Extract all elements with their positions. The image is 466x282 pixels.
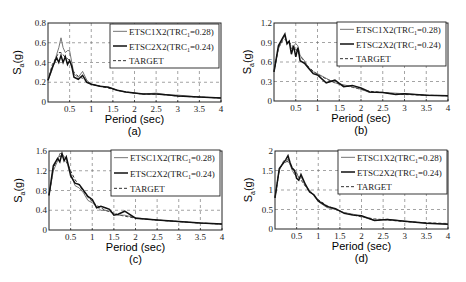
legend-entry: TARGET	[356, 54, 391, 64]
x-axis-label: Period (sec)	[331, 112, 390, 124]
y-tick-label: 1.2	[36, 166, 47, 176]
x-tick-label: 0.5	[64, 104, 76, 114]
x-tick-label: 3	[403, 231, 408, 241]
y-tick-label: 1	[269, 185, 274, 195]
chart-panel-c: 0.511.522.533.5400.40.81.21.6Period (sec…	[0, 141, 233, 282]
legend: ETSC1X2(TRC1=0.28)ETSC2X2(TRC1=0.24)TARG…	[110, 24, 219, 68]
x-tick-label: 4	[219, 104, 224, 114]
x-axis-label: Period (sec)	[105, 113, 164, 125]
x-tick-label: 0.5	[290, 103, 302, 113]
legend-entry: ETSC2X2(TRC1=0.24)	[356, 40, 441, 51]
chart-caption: (c)	[129, 253, 142, 265]
y-tick-label: 0.6	[261, 57, 273, 67]
legend-entry: ETSC1X2(TRC1=0.28)	[130, 153, 215, 164]
y-tick-label: 0	[269, 224, 274, 234]
x-tick-label: 1	[90, 232, 95, 242]
legend: ETSC1X2(TRC1=0.28)ETSC2X2(TRC1=0.24)TARG…	[111, 150, 220, 196]
y-tick-label: 0.3	[261, 77, 273, 87]
legend: ETSC1X2(TRC1=0.28)ETSC2X2(TRC1=0.24)TARG…	[338, 150, 447, 194]
chart-b: 0.511.522.533.5400.30.60.91.2Period (sec…	[233, 0, 466, 141]
x-tick-label: 1	[89, 104, 94, 114]
legend: ETSC1X2(TRC1=0.28)ETSC2X2(TRC1=0.24)TARG…	[337, 22, 446, 66]
x-tick-label: 1	[316, 231, 321, 241]
x-tick-label: 0.5	[65, 232, 77, 242]
y-tick-label: 0.8	[36, 186, 48, 196]
y-axis-label: Sa(g)	[241, 50, 255, 75]
y-tick-label: 0.8	[35, 18, 47, 28]
legend-entry: ETSC1X2(TRC1=0.28)	[357, 153, 442, 164]
chart-caption: (a)	[128, 125, 141, 137]
x-tick-label: 3.5	[421, 231, 433, 241]
y-tick-label: 2	[269, 146, 274, 156]
y-tick-label: 1.2	[261, 18, 272, 28]
y-tick-label: 0.4	[36, 205, 48, 215]
legend-entry: ETSC2X2(TRC1=0.24)	[130, 169, 215, 180]
x-tick-label: 4	[220, 232, 225, 242]
y-tick-label: 0.6	[35, 38, 47, 48]
chart-a: 0.511.522.533.5400.20.40.60.8Period (sec…	[0, 0, 233, 141]
chart-caption: (b)	[354, 124, 367, 136]
legend-entry: ETSC2X2(TRC1=0.24)	[129, 42, 214, 53]
x-tick-label: 3	[176, 104, 181, 114]
y-axis-label: Sa(g)	[12, 178, 26, 203]
legend-entry: TARGET	[357, 182, 392, 192]
y-tick-label: 0	[42, 97, 47, 107]
y-tick-label: 1.5	[262, 166, 274, 176]
x-axis-label: Period (sec)	[332, 240, 391, 252]
x-tick-label: 4	[446, 103, 451, 113]
chart-c: 0.511.522.533.5400.40.81.21.6Period (sec…	[0, 141, 233, 282]
chart-d: 0.511.522.533.5400.511.52Period (sec)(d)…	[233, 141, 466, 282]
y-tick-label: 0	[43, 225, 48, 235]
x-tick-label: 3.5	[421, 103, 433, 113]
x-tick-label: 3	[177, 232, 182, 242]
x-tick-label: 3.5	[194, 104, 206, 114]
x-tick-label: 1	[315, 103, 320, 113]
legend-entry: TARGET	[129, 56, 164, 66]
x-tick-label: 3.5	[195, 232, 207, 242]
y-tick-label: 0.2	[35, 77, 46, 87]
x-tick-label: 4	[446, 231, 451, 241]
legend-entry: ETSC1X2(TRC1=0.28)	[356, 25, 441, 36]
y-tick-label: 1.6	[36, 146, 48, 156]
y-axis-label: Sa(g)	[242, 178, 256, 203]
chart-panel-a: 0.511.522.533.5400.20.40.60.8Period (sec…	[0, 0, 233, 141]
y-tick-label: 0.9	[261, 38, 273, 48]
y-tick-label: 0.4	[35, 58, 47, 68]
x-axis-label: Period (sec)	[106, 241, 165, 253]
y-tick-label: 0.5	[262, 205, 274, 215]
legend-entry: TARGET	[130, 184, 165, 194]
legend-entry: ETSC2X2(TRC1=0.24)	[357, 168, 442, 179]
x-tick-label: 3	[402, 103, 407, 113]
chart-caption: (d)	[355, 252, 368, 264]
y-tick-label: 0	[268, 96, 273, 106]
y-axis-label: Sa(g)	[11, 50, 25, 75]
chart-panel-d: 0.511.522.533.5400.511.52Period (sec)(d)…	[233, 141, 466, 282]
chart-panel-b: 0.511.522.533.5400.30.60.91.2Period (sec…	[233, 0, 466, 141]
x-tick-label: 0.5	[291, 231, 303, 241]
legend-entry: ETSC1X2(TRC1=0.28)	[129, 27, 214, 38]
